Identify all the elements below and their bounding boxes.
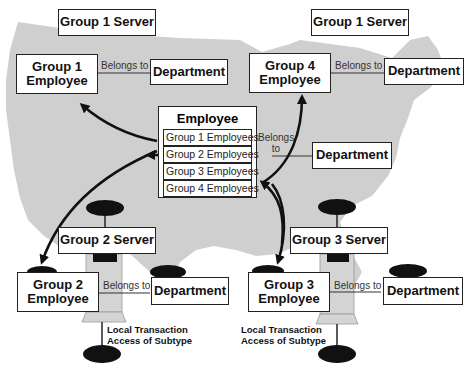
- entity-title: Employee: [159, 111, 256, 126]
- department-label: Department: [153, 65, 225, 79]
- belongs-line1: Belongs: [258, 133, 294, 144]
- department-label: Department: [154, 284, 226, 298]
- group1-server-left: Group 1 Server: [58, 9, 156, 36]
- server-label: Group 2 Server: [60, 233, 154, 247]
- belongs-to-label: Belongs to: [103, 281, 150, 292]
- department-box-3: Department: [312, 142, 392, 169]
- belongs-to-label: Belongs to: [101, 61, 148, 72]
- department-box-1: Department: [150, 59, 228, 85]
- belongs-to-label: Belongs to: [335, 61, 382, 72]
- group3-server: Group 3 Server: [290, 227, 388, 254]
- subtype-row-group3: Group 3 Employees: [163, 163, 252, 180]
- employee-label-line1: Group 3: [264, 278, 314, 292]
- group4-employee-box: Group 4 Employee: [249, 53, 331, 93]
- department-box-2: Department: [384, 58, 464, 85]
- group3-employee-box: Group 3 Employee: [248, 272, 330, 312]
- department-label: Department: [316, 148, 388, 162]
- employee-label-line2: Employee: [27, 292, 88, 306]
- subtype-row-group1: Group 1 Employees: [163, 129, 252, 146]
- local-transaction-note: Local Transaction Access of Subtype: [107, 325, 192, 347]
- group2-server: Group 2 Server: [58, 227, 156, 254]
- subtype-row-group2: Group 2 Employees: [163, 146, 252, 163]
- department-label: Department: [387, 284, 459, 298]
- employee-label-line1: Group 2: [33, 278, 83, 292]
- group1-employee-box: Group 1 Employee: [16, 54, 98, 94]
- employee-label-line1: Group 1: [32, 60, 82, 74]
- belongs-to-label: Belongs to: [258, 133, 294, 154]
- employee-label-line2: Employee: [258, 292, 319, 306]
- server-label: Group 1 Server: [60, 15, 154, 29]
- department-box-5: Department: [383, 277, 463, 305]
- belongs-line2: to: [258, 144, 294, 155]
- employee-label-line1: Group 4: [265, 59, 315, 73]
- note-line2: Access of Subtype: [241, 336, 326, 347]
- department-box-4: Department: [151, 277, 229, 305]
- subtype-row-group4: Group 4 Employees: [163, 180, 252, 197]
- employee-label-line2: Employee: [259, 73, 320, 87]
- diagram-canvas: Group 1 Server Group 1 Server Group 1 Em…: [0, 0, 469, 370]
- employee-label-line2: Employee: [26, 74, 87, 88]
- note-line2: Access of Subtype: [107, 336, 192, 347]
- central-employee-entity: Employee Group 1 Employees Group 2 Emplo…: [158, 106, 257, 198]
- belongs-to-label: Belongs to: [334, 281, 381, 292]
- server-label: Group 1 Server: [313, 15, 407, 29]
- server-label: Group 3 Server: [292, 233, 386, 247]
- group2-employee-box: Group 2 Employee: [17, 272, 99, 312]
- department-label: Department: [388, 64, 460, 78]
- local-transaction-note: Local Transaction Access of Subtype: [241, 325, 326, 347]
- group1-server-right: Group 1 Server: [311, 9, 409, 36]
